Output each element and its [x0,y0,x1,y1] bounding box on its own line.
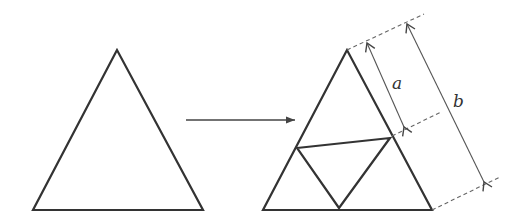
dashed-extension-base [432,177,500,210]
original-triangle [33,50,203,210]
outer-triangle [263,50,432,210]
diagram-canvas: a b [0,0,527,222]
label-a: a [392,73,402,93]
inner-triangle [297,138,390,208]
dashed-extension-apex [347,14,424,50]
label-b: b [453,91,464,111]
dimension-b-arrow [407,24,484,182]
